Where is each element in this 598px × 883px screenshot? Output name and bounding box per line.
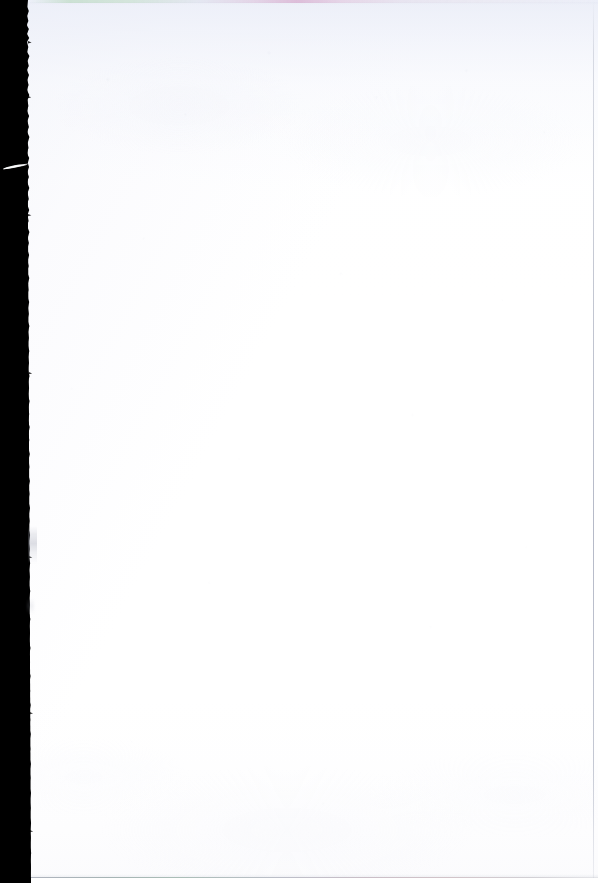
scanned-page-canvas — [0, 0, 598, 883]
page-surface — [0, 0, 598, 883]
